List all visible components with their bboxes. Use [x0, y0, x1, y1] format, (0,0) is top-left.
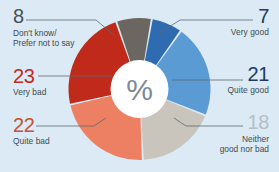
callout-dont-know-label-line1: Don't know/ [13, 28, 74, 38]
callout-very-bad: 23 Very bad [13, 66, 46, 97]
callout-quite-bad: 22 Quite bad [13, 115, 50, 146]
callout-neither-label-line1: Neither [220, 134, 269, 144]
callout-neither: 18 Neither good nor bad [220, 112, 269, 155]
callout-neither-value: 18 [220, 112, 269, 133]
callout-quite-good-value: 21 [228, 64, 269, 85]
callout-quite-good-label: Quite good [228, 86, 269, 95]
callout-dont-know: 8 Don't know/ Prefer not to say [13, 6, 74, 49]
percent-glyph: % [126, 73, 153, 106]
chart-canvas: % 8 Don't know/ Prefer not to say 23 Ver… [0, 0, 279, 172]
callout-very-bad-label: Very bad [13, 88, 46, 97]
callout-very-bad-value: 23 [13, 66, 46, 87]
callout-neither-label-line2: good nor bad [220, 144, 269, 154]
callout-quite-good: 21 Quite good [228, 64, 269, 95]
callout-quite-bad-value: 22 [13, 115, 50, 136]
callout-dont-know-value: 8 [13, 6, 74, 27]
callout-quite-bad-label: Quite bad [13, 137, 50, 146]
callout-very-good: 7 Very good [231, 6, 269, 37]
callout-very-good-label: Very good [231, 28, 269, 37]
callout-very-good-value: 7 [231, 6, 269, 27]
callout-dont-know-label-line2: Prefer not to say [13, 38, 74, 48]
